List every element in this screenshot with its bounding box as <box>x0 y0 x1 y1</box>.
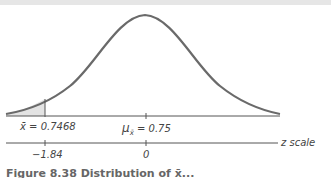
bell-curve <box>6 15 280 114</box>
figure-caption: Figure 8.38 Distribution of x̄... <box>6 167 194 178</box>
z-scale-label: z scale <box>281 137 315 148</box>
z-left-label: −1.84 <box>32 149 63 160</box>
mu-value: = 0.75 <box>137 123 171 134</box>
mu-symbol: μ <box>122 121 130 135</box>
z-zero-label: 0 <box>143 149 149 160</box>
xbar-label: x̄ = 0.7468 <box>20 121 76 132</box>
mu-label: μx̄ = 0.75 <box>122 121 171 137</box>
mu-subscript: x̄ <box>130 129 134 137</box>
